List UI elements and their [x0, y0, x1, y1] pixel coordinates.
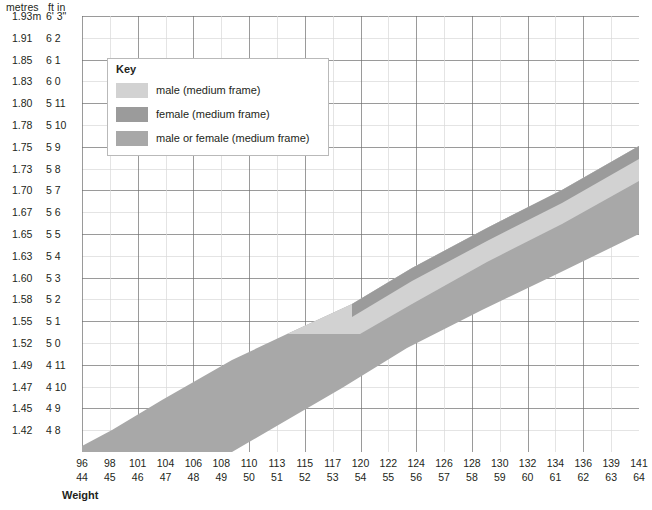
- x-axis-title: Weight: [62, 489, 98, 501]
- x-tick-lb: 141: [622, 457, 652, 470]
- x-tick-20: 14164: [622, 457, 652, 485]
- x-tick-kg: 64: [622, 470, 652, 485]
